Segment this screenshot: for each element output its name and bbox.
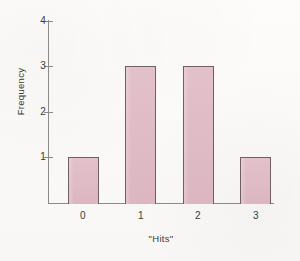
bar-shading [184, 67, 213, 204]
x-axis-title: "Hits" [48, 233, 274, 244]
y-axis-tick-label-2: 2 [26, 107, 46, 117]
x-axis-tick-label-1: 1 [126, 210, 156, 221]
bar-category-1 [125, 66, 156, 204]
y-axis-tick-label-4: 4 [26, 16, 46, 26]
bar-category-0 [68, 157, 99, 204]
y-axis-tick-label-3: 3 [26, 61, 46, 71]
y-axis-title: Frequency [15, 54, 26, 130]
bar-category-2 [183, 66, 214, 204]
bar-shading [69, 158, 98, 204]
x-axis-tick-label-2: 2 [183, 210, 213, 221]
bar-chart-figure: 4 3 2 1 0 1 2 3 Frequency "Hits" [0, 0, 300, 261]
bar-shading [241, 158, 270, 204]
bar-category-3 [240, 157, 271, 204]
y-axis-tick-label-1: 1 [26, 152, 46, 162]
x-axis-tick-label-3: 3 [241, 210, 271, 221]
x-axis-tick-label-0: 0 [68, 210, 98, 221]
bar-shading [126, 67, 155, 204]
